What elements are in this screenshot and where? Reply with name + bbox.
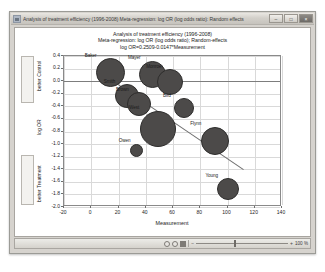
minimize-button[interactable]: – — [269, 14, 283, 23]
application-window: Analysis of treatment efficiency (1996-2… — [9, 11, 316, 254]
bubble-label: Brown — [116, 87, 129, 92]
y-tick-mark — [61, 118, 63, 119]
gridline-horizontal — [64, 144, 280, 145]
zoom-out-button[interactable]: − — [191, 241, 194, 246]
y-tick-label: 0.2 — [53, 65, 60, 70]
page-view-icon[interactable] — [172, 241, 178, 247]
plot-wrapper: better Control log OR better Treatment B… — [15, 28, 311, 237]
document-canvas: Analysis of treatment efficiency (1996-2… — [14, 27, 311, 237]
y-tick-mark — [61, 105, 63, 106]
bubble-label: Baker — [85, 53, 97, 58]
bubble-point[interactable] — [217, 178, 239, 200]
gridline-horizontal — [64, 169, 280, 170]
x-axis-title: Measurement — [63, 220, 281, 226]
x-tick-mark — [254, 206, 255, 208]
better-treatment-band — [21, 155, 34, 205]
y-tick-label: -0.6 — [51, 115, 60, 120]
y-tick-mark — [61, 143, 63, 144]
plot-area[interactable]: BakerSmithMayerBrownMonroeWestBirdOwenFl… — [63, 55, 281, 206]
bubble-label: Owen — [119, 138, 131, 143]
y-tick-label: -0.2 — [51, 90, 60, 95]
bubble-point[interactable] — [130, 144, 143, 157]
x-tick-mark — [172, 206, 173, 208]
y-tick-mark — [61, 181, 63, 182]
y-tick-label: -1.4 — [51, 166, 60, 171]
gridline-horizontal — [64, 194, 280, 195]
y-tick-label: 0.0 — [53, 78, 60, 83]
bubble-label: West — [129, 105, 139, 110]
bubble-label: Monroe — [146, 64, 161, 69]
bubble-label: Bird — [163, 93, 171, 98]
window-title: Analysis of treatment efficiency (1996-2… — [23, 16, 269, 22]
x-tick-mark — [90, 206, 91, 208]
bubble-point[interactable] — [157, 69, 183, 95]
y-axis-title: log OR — [37, 110, 43, 144]
gridline-horizontal — [64, 182, 280, 183]
bubble-label: Mayer — [128, 55, 141, 60]
y-tick-label: -1.6 — [51, 178, 60, 183]
better-control-band — [21, 56, 34, 103]
y-tick-label: -1.2 — [51, 153, 60, 158]
normal-view-icon[interactable] — [164, 241, 170, 247]
draft-view-icon[interactable] — [180, 241, 186, 247]
x-tick-label: 40 — [133, 210, 157, 215]
y-tick-mark — [61, 68, 63, 69]
gridline-horizontal — [64, 157, 280, 158]
screenshot-root: Analysis of treatment efficiency (1996-2… — [0, 0, 325, 272]
x-tick-mark — [118, 206, 119, 208]
better-control-label: better Control — [37, 57, 43, 95]
y-tick-mark — [61, 131, 63, 132]
bubble-point[interactable] — [174, 98, 194, 118]
better-treatment-label: better Treatment — [37, 163, 43, 205]
y-tick-mark — [61, 193, 63, 194]
close-button[interactable]: × — [299, 14, 313, 23]
y-tick-label: -0.4 — [51, 103, 60, 108]
y-tick-mark — [61, 55, 63, 56]
chart-window-icon — [13, 15, 21, 23]
gridline-horizontal — [64, 106, 280, 107]
x-tick-mark — [199, 206, 200, 208]
x-tick-label: 120 — [242, 210, 266, 215]
y-tick-mark — [61, 168, 63, 169]
maximize-icon: □ — [289, 16, 292, 21]
window-controls: – □ × — [269, 14, 313, 23]
bubble-point[interactable] — [201, 127, 229, 155]
x-tick-mark — [281, 206, 282, 208]
y-tick-label: 0.4 — [53, 53, 60, 58]
x-tick-label: 100 — [215, 210, 239, 215]
y-tick-label: -0.8 — [51, 128, 60, 133]
zoom-slider-thumb[interactable] — [234, 240, 236, 247]
status-bar: − + 100 % — [14, 238, 311, 249]
zoom-slider[interactable] — [196, 243, 288, 244]
x-tick-mark — [145, 206, 146, 208]
x-tick-label: 20 — [106, 210, 130, 215]
bubble-point[interactable] — [140, 111, 176, 147]
y-tick-label: -1.8 — [51, 191, 60, 196]
zoom-in-button[interactable]: + — [290, 241, 293, 246]
y-tick-label: -2.0 — [51, 204, 60, 209]
bubble-label: Flynn — [190, 121, 201, 126]
bubble-label: Smith — [104, 79, 116, 84]
y-tick-mark — [61, 80, 63, 81]
x-tick-mark — [227, 206, 228, 208]
y-tick-label: -1.0 — [51, 141, 60, 146]
x-tick-label: 60 — [160, 210, 184, 215]
close-icon: × — [305, 16, 308, 21]
gridline-vertical — [282, 56, 283, 205]
x-tick-mark — [63, 206, 64, 208]
maximize-button[interactable]: □ — [284, 14, 298, 23]
minimize-icon: – — [275, 16, 278, 21]
y-tick-mark — [61, 93, 63, 94]
status-divider — [188, 240, 189, 247]
window-titlebar[interactable]: Analysis of treatment efficiency (1996-2… — [11, 13, 314, 25]
x-tick-label: 140 — [269, 210, 293, 215]
bubble-label: Young — [206, 173, 219, 178]
zoom-level-label: 100 % — [295, 241, 308, 246]
y-tick-mark — [61, 156, 63, 157]
x-tick-label: -20 — [51, 210, 75, 215]
x-tick-label: 80 — [187, 210, 211, 215]
x-tick-label: 0 — [78, 210, 102, 215]
